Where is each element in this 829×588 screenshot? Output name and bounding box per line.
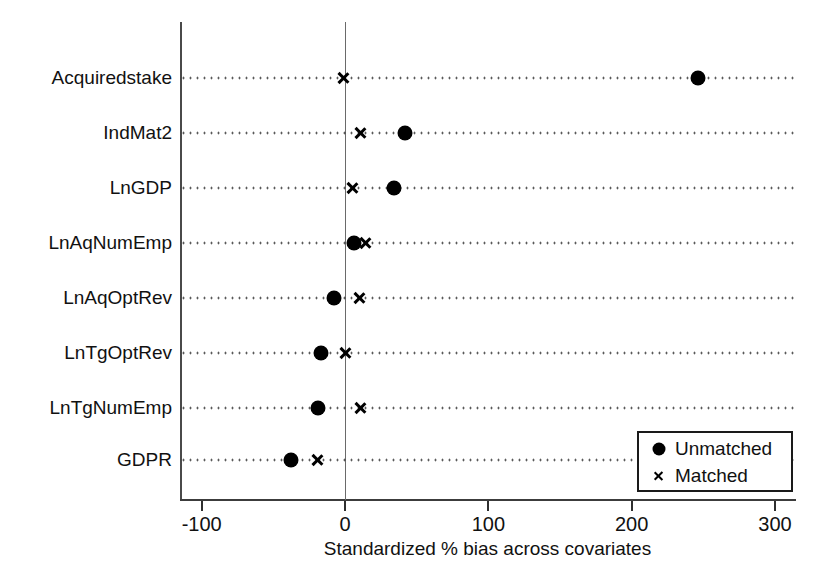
- data-point-matched: [354, 126, 368, 140]
- y-axis-tick-label: GDPR: [0, 449, 172, 471]
- zero-reference-line: [345, 22, 346, 500]
- data-point-unmatched: [310, 401, 325, 416]
- data-point-unmatched: [313, 346, 328, 361]
- bias-scatter-chart: AcquiredstakeIndMat2LnGDPLnAqNumEmpLnAqO…: [0, 0, 829, 588]
- data-point-matched: [311, 453, 325, 467]
- x-axis-tick-label: 200: [615, 512, 648, 536]
- legend-label-unmatched: Unmatched: [675, 438, 772, 460]
- data-point-unmatched: [398, 126, 413, 141]
- x-axis-tick: [774, 501, 776, 511]
- filled-circle-icon: [649, 439, 669, 459]
- data-point-matched: [358, 236, 372, 250]
- x-cross-icon: [649, 466, 669, 486]
- y-axis-tick-label: LnTgNumEmp: [0, 397, 172, 419]
- y-axis-line: [180, 22, 182, 500]
- data-point-unmatched: [283, 453, 298, 468]
- x-axis-tick: [631, 501, 633, 511]
- data-point-matched: [352, 291, 366, 305]
- y-axis-tick-label: IndMat2: [0, 122, 172, 144]
- guide-line: [180, 242, 795, 245]
- legend: Unmatched Matched: [637, 431, 793, 492]
- x-axis-tick-label: 100: [472, 512, 505, 536]
- guide-line: [180, 132, 795, 135]
- y-axis-tick-label: LnAqOptRev: [0, 287, 172, 309]
- data-point-unmatched: [386, 181, 401, 196]
- data-point-unmatched: [326, 291, 341, 306]
- x-axis-tick: [201, 501, 203, 511]
- x-axis-tick-label: -100: [182, 512, 222, 536]
- x-axis-tick-label: 300: [758, 512, 791, 536]
- guide-line: [180, 297, 795, 300]
- legend-label-matched: Matched: [675, 465, 748, 487]
- legend-item-matched: Matched: [649, 463, 748, 489]
- data-point-matched: [337, 71, 351, 85]
- y-axis-tick-label: Acquiredstake: [0, 67, 172, 89]
- x-axis-tick: [487, 501, 489, 511]
- guide-line: [180, 352, 795, 355]
- data-point-matched: [345, 181, 359, 195]
- data-point-matched: [354, 401, 368, 415]
- x-axis-title: Standardized % bias across covariates: [180, 538, 795, 560]
- data-point-matched: [338, 346, 352, 360]
- guide-line: [180, 187, 795, 190]
- legend-item-unmatched: Unmatched: [649, 436, 772, 462]
- y-axis-tick-label: LnTgOptRev: [0, 342, 172, 364]
- x-axis-tick-label: 0: [339, 512, 350, 536]
- x-axis-tick: [344, 501, 346, 511]
- y-axis-tick-label: LnGDP: [0, 177, 172, 199]
- data-point-unmatched: [690, 71, 705, 86]
- guide-line: [180, 407, 795, 410]
- y-axis-tick-label: LnAqNumEmp: [0, 232, 172, 254]
